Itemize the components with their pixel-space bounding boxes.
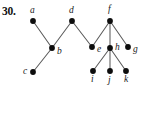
graph-vertex-label-i: i [91,74,94,84]
graph-vertex-a [30,18,36,24]
graph-vertex-label-j: j [106,75,111,85]
graph-vertex-g [125,44,131,50]
graph-vertex-c [30,69,36,75]
graph-vertex-label-f: f [108,4,112,14]
graph-vertex-label-g: g [133,44,138,54]
graph-edge-b-c [33,48,52,72]
graph-vertex-f [107,18,113,24]
graph-diagram: abcdefghijk [0,0,142,126]
graph-vertex-label-h: h [115,42,120,52]
graph-vertex-label-k: k [124,74,129,84]
graph-edge-b-d [52,21,72,48]
graph-vertex-label-e: e [97,44,101,54]
edge-layer [33,21,128,72]
graph-vertex-b [49,45,55,51]
graph-edge-d-e [72,21,92,47]
graph-vertex-h [107,45,113,51]
graph-vertex-j [107,68,113,74]
graph-vertex-label-b: b [57,46,62,56]
graph-vertex-label-c: c [23,66,28,76]
graph-vertex-label-a: a [30,5,35,15]
graph-edge-h-i [93,48,110,71]
graph-edge-a-b [33,21,52,48]
graph-vertex-label-d: d [69,5,74,15]
graph-vertex-d [69,18,75,24]
graph-vertex-e [89,44,95,50]
label-layer: abcdefghijk [23,4,138,85]
